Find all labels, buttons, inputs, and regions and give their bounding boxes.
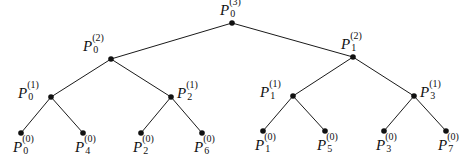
node-label: P(0)1 — [255, 136, 280, 156]
node-label: P(1)2 — [177, 84, 202, 104]
node-label-superscript: (1) — [186, 80, 198, 90]
node-label-subscript: 2 — [187, 92, 192, 102]
node-label: P(0)0 — [13, 138, 38, 158]
node-label-scripts: (1)3 — [429, 83, 445, 103]
node-label-subscript: 3 — [386, 144, 391, 154]
node-label-scripts: (2)1 — [350, 35, 366, 55]
node-label-scripts: (1)1 — [269, 83, 285, 103]
node-label: P(1)1 — [260, 83, 285, 103]
tree-edge — [141, 97, 171, 133]
tree-node-dot — [229, 20, 235, 26]
node-label-base: P — [18, 85, 27, 101]
node-label-superscript: (1) — [27, 80, 39, 90]
node-label-scripts: (3)0 — [229, 1, 245, 21]
node-label-superscript: (0) — [264, 132, 276, 142]
node-label-base: P — [83, 38, 92, 54]
tree-edge — [51, 59, 111, 97]
node-label: P(0)3 — [376, 136, 401, 156]
tree-node-dot — [290, 93, 296, 99]
node-label-superscript: (0) — [22, 134, 34, 144]
node-label-superscript: (1) — [269, 79, 281, 89]
node-label-base: P — [75, 139, 84, 155]
node-label-superscript: (0) — [385, 132, 397, 142]
node-label-subscript: 4 — [85, 146, 90, 156]
node-label-scripts: (0)7 — [447, 136, 463, 156]
node-label-superscript: (2) — [92, 33, 104, 43]
tree-node-dot — [48, 94, 54, 100]
node-label: P(2)1 — [341, 35, 366, 55]
node-label-scripts: (0)0 — [22, 138, 38, 158]
node-label-scripts: (0)4 — [84, 138, 100, 158]
node-label-superscript: (0) — [142, 134, 154, 144]
node-label: P(3)0 — [220, 1, 245, 21]
node-label-subscript: 0 — [230, 9, 235, 19]
node-label-scripts: (0)2 — [142, 138, 158, 158]
node-label-superscript: (3) — [229, 0, 241, 7]
tree-node-dot — [108, 56, 114, 62]
node-label-subscript: 5 — [327, 144, 332, 154]
node-label-subscript: 0 — [23, 146, 28, 156]
tree-edge — [384, 96, 414, 131]
node-label: P(0)6 — [194, 138, 219, 158]
node-label: P(2)0 — [83, 37, 108, 57]
node-label-scripts: (0)6 — [203, 138, 219, 158]
tree-edge — [51, 97, 83, 133]
node-label-scripts: (0)5 — [326, 136, 342, 156]
tree-edge — [111, 23, 232, 59]
node-label-superscript: (0) — [326, 132, 338, 142]
node-label-subscript: 2 — [143, 146, 148, 156]
node-label-base: P — [438, 137, 447, 153]
tree-edge — [353, 57, 414, 96]
tree-edge — [111, 59, 171, 97]
node-label-subscript: 1 — [270, 91, 275, 101]
node-label-base: P — [133, 139, 142, 155]
tree-node-dot — [350, 54, 356, 60]
tree-edge — [293, 96, 325, 131]
node-label-base: P — [220, 2, 229, 18]
node-label-scripts: (2)0 — [92, 37, 108, 57]
node-label-superscript: (0) — [447, 132, 459, 142]
node-label-subscript: 3 — [430, 91, 435, 101]
node-label-scripts: (0)3 — [385, 136, 401, 156]
node-label-superscript: (0) — [84, 134, 96, 144]
node-label-base: P — [317, 137, 326, 153]
node-label: P(0)2 — [133, 138, 158, 158]
node-label: P(1)3 — [420, 83, 445, 103]
tree-edge — [232, 23, 353, 57]
node-label: P(0)4 — [75, 138, 100, 158]
tree-edge — [293, 57, 353, 96]
node-label-base: P — [260, 84, 269, 100]
node-label-base: P — [177, 85, 186, 101]
node-label-scripts: (1)2 — [186, 84, 202, 104]
node-label-scripts: (0)1 — [264, 136, 280, 156]
node-label: P(0)5 — [317, 136, 342, 156]
node-label-subscript: 1 — [351, 43, 356, 53]
node-label-superscript: (2) — [350, 31, 362, 41]
node-label-base: P — [341, 36, 350, 52]
node-label-subscript: 6 — [204, 146, 209, 156]
tree-node-dot — [411, 93, 417, 99]
node-label-scripts: (1)0 — [27, 84, 43, 104]
node-label-subscript: 7 — [448, 144, 453, 154]
node-label-subscript: 0 — [28, 92, 33, 102]
node-label-superscript: (0) — [203, 134, 215, 144]
node-label-base: P — [13, 139, 22, 155]
node-label-subscript: 0 — [93, 45, 98, 55]
node-label-base: P — [420, 84, 429, 100]
node-label-base: P — [194, 139, 203, 155]
node-label: P(0)7 — [438, 136, 463, 156]
node-label: P(1)0 — [18, 84, 43, 104]
node-label-base: P — [376, 137, 385, 153]
node-label-superscript: (1) — [429, 79, 441, 89]
tree-edges-canvas — [0, 0, 475, 167]
node-label-subscript: 1 — [265, 144, 270, 154]
tree-node-dot — [168, 94, 174, 100]
node-label-base: P — [255, 137, 264, 153]
